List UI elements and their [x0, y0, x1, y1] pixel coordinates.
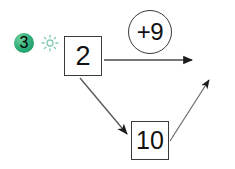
node-box-ten[interactable]: 10	[131, 121, 169, 160]
node-box-two-label: 2	[75, 43, 90, 70]
node-circle-plus-nine-label: +9	[137, 20, 163, 44]
edge-arrow-from-ten	[170, 80, 209, 141]
node-box-ten-label: 10	[136, 128, 164, 153]
step-number-badge: 3	[14, 33, 34, 53]
diagram-canvas: 3 2 10 +9	[0, 0, 235, 169]
node-circle-plus-nine[interactable]: +9	[128, 10, 172, 54]
edge-arrow-to-ten	[80, 78, 127, 134]
step-number-badge-label: 3	[20, 34, 29, 52]
sun-icon	[41, 34, 59, 52]
node-box-two[interactable]: 2	[64, 36, 102, 76]
diagram-edges-layer	[0, 0, 235, 169]
